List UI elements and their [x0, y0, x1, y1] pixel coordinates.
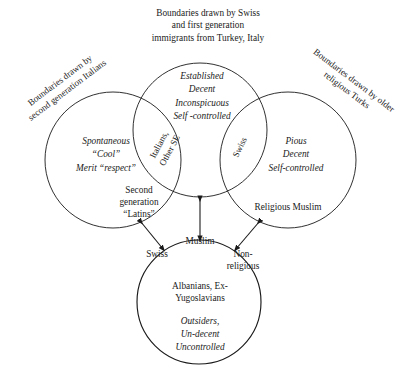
circle-established — [133, 63, 267, 197]
arrow-right-to-bottom — [236, 222, 259, 249]
diagram-canvas: Boundaries drawn by Swiss and first gene… — [0, 0, 416, 373]
circle-religious-muslim — [220, 92, 356, 228]
arrow-left-to-bottom — [141, 222, 163, 249]
venn-circles-group — [0, 0, 416, 373]
circle-outsiders — [137, 240, 261, 364]
circle-second-generation-latins — [45, 92, 181, 228]
